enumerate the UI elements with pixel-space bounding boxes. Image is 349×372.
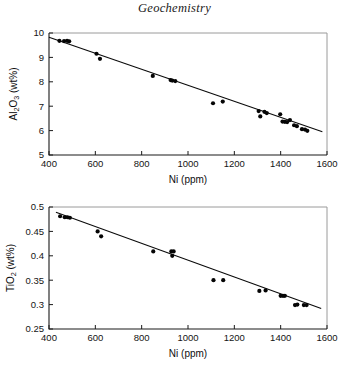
y-tick-label: 0.3 [31,299,44,310]
data-point [151,249,155,253]
data-point [57,39,61,43]
x-axis-title: Ni (ppm) [169,174,207,185]
x-tick-label: 1200 [224,332,245,343]
trend-line [49,37,322,132]
chart-al2o3-vs-ni: 40060080010001200140016005678910Ni (ppm)… [0,18,349,190]
chart-tio2-vs-ni: 40060080010001200140016000.250.30.350.40… [0,190,349,372]
y-tick-label: 0.45 [26,226,45,237]
x-tick-label: 1200 [224,158,245,169]
y-axis-title: Al2O3 (wt%) [8,67,21,120]
y-tick-label: 5 [39,149,44,160]
data-point [305,303,309,307]
y-axis-title: TiO2 (wt%) [5,244,18,292]
x-tick-label: 600 [87,158,103,169]
data-point [265,111,269,115]
y-tick-label: 0.5 [31,201,44,212]
y-tick-label: 10 [33,27,44,38]
data-point [96,229,100,233]
data-point-group [58,214,309,307]
y-tick-label: 9 [39,52,44,63]
x-tick-label: 1600 [316,158,337,169]
data-point [221,278,225,282]
data-point [94,52,98,56]
data-point [288,118,292,122]
chart-al2o3-canvas: 40060080010001200140016005678910Ni (ppm)… [0,18,349,190]
y-tick-label: 0.25 [26,323,45,334]
page-title: Geochemistry [0,1,349,16]
data-point [257,289,261,293]
x-tick-label: 800 [134,158,150,169]
data-point [151,74,155,78]
data-point [258,114,262,118]
x-axis-title: Ni (ppm) [169,348,207,359]
y-tick-label: 0.4 [31,250,44,261]
data-point [221,99,225,103]
data-point [264,288,268,292]
data-point [295,303,299,307]
y-tick-label: 8 [39,76,44,87]
data-point [305,129,309,133]
data-point [58,214,62,218]
data-point-group [57,39,309,133]
data-point [211,101,215,105]
data-point [67,39,71,43]
data-point [173,79,177,83]
x-tick-label: 600 [87,332,103,343]
data-point [257,109,261,113]
data-point [295,124,299,128]
data-point [278,112,282,116]
x-tick-label: 1400 [270,332,291,343]
data-point [172,249,176,253]
x-tick-label: 1000 [177,332,198,343]
data-point [98,57,102,61]
y-tick-label: 7 [39,101,44,112]
y-tick-label: 0.35 [26,275,45,286]
x-tick-label: 1600 [316,332,337,343]
chart-tio2-canvas: 40060080010001200140016000.250.30.350.40… [0,190,349,372]
data-point [170,254,174,258]
x-tick-label: 1000 [177,158,198,169]
x-tick-label: 800 [134,332,150,343]
figure-page: Geochemistry 400600800100012001400160056… [0,0,349,372]
data-point [283,294,287,298]
y-tick-label: 6 [39,125,44,136]
x-tick-label: 1400 [270,158,291,169]
data-point [99,234,103,238]
data-point [68,216,72,220]
data-point [211,278,215,282]
